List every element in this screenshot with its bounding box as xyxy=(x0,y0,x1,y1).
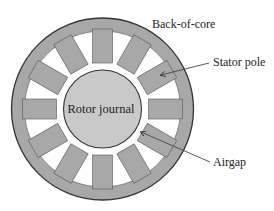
stator-pole-label: Stator pole xyxy=(213,55,265,69)
stator-rotor-diagram: Rotor journal Back-of-core Stator pole A… xyxy=(0,0,274,211)
stator-pole xyxy=(149,99,183,119)
airgap-label: Airgap xyxy=(213,155,246,169)
rotor-journal-label: Rotor journal xyxy=(67,102,135,116)
stator-pole xyxy=(23,99,57,119)
stator-pole xyxy=(93,29,113,63)
back-of-core-label: Back-of-core xyxy=(152,17,215,31)
stator-pole xyxy=(93,155,113,189)
